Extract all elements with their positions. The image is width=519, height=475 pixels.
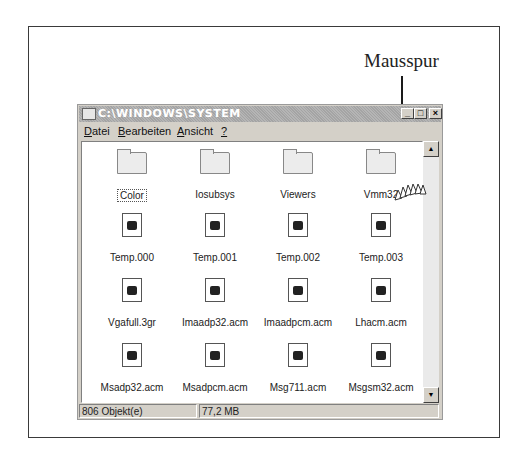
menu-help[interactable]: ?	[221, 125, 227, 137]
system-file-icon	[371, 278, 391, 302]
item-label: Temp.000	[108, 252, 156, 263]
system-file-icon	[205, 343, 225, 367]
item-label: Msgsm32.acm	[346, 382, 415, 393]
menu-datei[interactable]: Datei	[84, 125, 110, 137]
scroll-up-button[interactable]: ▲	[423, 141, 439, 157]
item-label: Temp.002	[274, 252, 322, 263]
title-bar[interactable]: C:\WINDOWS\SYSTEM _ □ ×	[79, 106, 441, 122]
file-item[interactable]: Imaadp32.acm	[175, 278, 255, 328]
system-file-icon	[288, 278, 308, 302]
system-file-icon	[205, 213, 225, 237]
item-label: Temp.001	[191, 252, 239, 263]
folder-icon	[82, 108, 96, 120]
menu-bar: Datei Bearbeiten Ansicht ?	[79, 123, 441, 140]
system-file-icon	[288, 343, 308, 367]
file-list-view[interactable]: ColorIosubsysViewersVmm32Temp.000Temp.00…	[81, 141, 423, 403]
file-item[interactable]: Lhacm.acm	[341, 278, 421, 328]
status-size: 77,2 MB	[199, 404, 439, 418]
item-label: Temp.003	[357, 252, 405, 263]
folder-item[interactable]: Iosubsys	[175, 148, 255, 200]
system-file-icon	[371, 213, 391, 237]
file-item[interactable]: Msg711.acm	[258, 343, 338, 393]
system-file-icon	[122, 343, 142, 367]
status-object-count: 806 Objekt(e)	[79, 404, 197, 418]
window-title: C:\WINDOWS\SYSTEM	[98, 107, 241, 120]
folder-icon	[366, 152, 396, 174]
system-file-icon	[371, 343, 391, 367]
file-item[interactable]: Temp.001	[175, 213, 255, 263]
close-button[interactable]: ×	[429, 108, 442, 119]
menu-ansicht[interactable]: Ansicht	[177, 125, 213, 137]
menu-bearbeiten[interactable]: Bearbeiten	[118, 125, 171, 137]
folder-item[interactable]: Color	[92, 148, 172, 202]
item-label: Vgafull.3gr	[106, 317, 158, 328]
item-label: Msadpcm.acm	[180, 382, 249, 393]
explorer-window: C:\WINDOWS\SYSTEM _ □ × Datei Bearbeiten…	[77, 104, 443, 420]
folder-icon	[200, 152, 230, 174]
folder-item[interactable]: Viewers	[258, 148, 338, 200]
item-label: Imaadpcm.acm	[262, 317, 334, 328]
file-item[interactable]: Vgafull.3gr	[92, 278, 172, 328]
maximize-button[interactable]: □	[414, 108, 427, 119]
file-item[interactable]: Imaadpcm.acm	[258, 278, 338, 328]
system-file-icon	[288, 213, 308, 237]
item-label: Msadp32.acm	[99, 382, 166, 393]
file-item[interactable]: Temp.003	[341, 213, 421, 263]
item-label: Msg711.acm	[268, 382, 329, 393]
file-item[interactable]: Msadp32.acm	[92, 343, 172, 393]
folder-icon	[117, 152, 147, 174]
status-bar: 806 Objekt(e) 77,2 MB	[79, 403, 441, 419]
figure-caption: Mausspur	[364, 50, 439, 72]
item-label: Iosubsys	[193, 189, 236, 200]
item-label: Viewers	[278, 189, 317, 200]
item-label: Color	[117, 189, 147, 202]
scroll-down-button[interactable]: ▼	[423, 387, 439, 403]
file-item[interactable]: Temp.000	[92, 213, 172, 263]
file-item[interactable]: Msgsm32.acm	[341, 343, 421, 393]
minimize-button[interactable]: _	[401, 108, 414, 119]
file-item[interactable]: Temp.002	[258, 213, 338, 263]
item-label: Imaadp32.acm	[180, 317, 250, 328]
folder-icon	[283, 152, 313, 174]
system-file-icon	[122, 278, 142, 302]
mouse-trail-icon	[393, 180, 427, 202]
system-file-icon	[122, 213, 142, 237]
item-label: Lhacm.acm	[353, 317, 409, 328]
file-item[interactable]: Msadpcm.acm	[175, 343, 255, 393]
system-file-icon	[205, 278, 225, 302]
